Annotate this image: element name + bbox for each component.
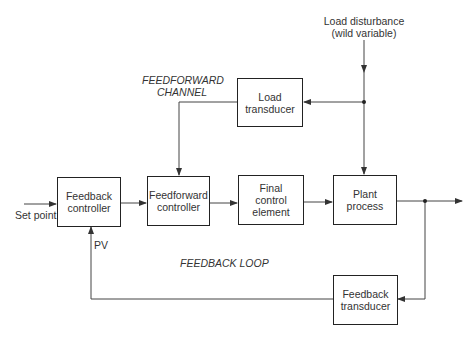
load-transducer-block: Load transducer bbox=[237, 78, 303, 127]
connection-wires bbox=[0, 0, 476, 338]
disturbance-junction bbox=[362, 100, 366, 104]
pv-label: PV bbox=[94, 239, 108, 251]
feedforward-controller-block: Feedforward controller bbox=[147, 176, 210, 226]
set-point-label: Set point bbox=[15, 209, 56, 221]
output-junction bbox=[423, 199, 427, 203]
feedforward-channel-label: FEEDFORWARD CHANNEL bbox=[142, 74, 222, 98]
feedback-transducer-block: Feedback transducer bbox=[333, 275, 398, 325]
feedback-controller-block: Feedback controller bbox=[57, 177, 121, 227]
load-disturbance-label: Load disturbance (wild variable) bbox=[318, 15, 410, 39]
feedback-loop-label: FEEDBACK LOOP bbox=[180, 257, 269, 269]
plant-process-block: Plant process bbox=[333, 175, 397, 225]
final-control-element-block: Final control element bbox=[238, 175, 304, 225]
